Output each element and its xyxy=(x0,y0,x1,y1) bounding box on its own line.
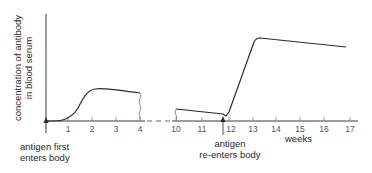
tick-label-13: 13 xyxy=(248,124,257,134)
first-entry-annotation: antigen first enters body xyxy=(20,141,70,163)
first-entry-line2: enters body xyxy=(20,152,70,163)
tick-label-16: 16 xyxy=(319,124,328,134)
primary-response-curve xyxy=(46,89,140,121)
secondary-response-curve xyxy=(176,38,346,116)
first-entry-arrow-icon xyxy=(44,117,49,123)
reentry-annotation: antigen re-enters body xyxy=(195,138,265,160)
y-axis-label: concentration of antibody in blood serum xyxy=(3,12,43,124)
y-axis-label-line2: in blood serum xyxy=(23,37,34,99)
tick-label-12: 12 xyxy=(226,124,235,134)
tick-label-10: 10 xyxy=(171,124,180,134)
tick-label-17: 17 xyxy=(345,124,354,134)
tick-label-3: 3 xyxy=(114,124,119,134)
tick-label-2: 2 xyxy=(90,124,95,134)
tick-label-1: 1 xyxy=(66,124,71,134)
tick-label-4: 4 xyxy=(138,124,143,134)
y-axis-label-line1: concentration of antibody xyxy=(12,15,23,121)
reentry-arrow-icon xyxy=(221,116,226,122)
reentry-line2: re-enters body xyxy=(199,149,260,160)
break-wave-1 xyxy=(139,93,141,121)
x-ticks xyxy=(68,117,350,121)
reentry-line1: antigen xyxy=(214,138,245,149)
first-entry-line1: antigen first xyxy=(20,141,69,152)
tick-label-14: 14 xyxy=(271,124,280,134)
tick-label-11: 11 xyxy=(198,124,207,134)
x-axis-label: weeks xyxy=(285,133,312,144)
